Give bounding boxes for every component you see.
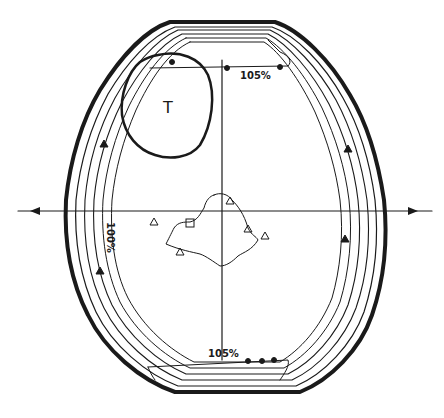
diamond-marker-icon [225, 66, 230, 71]
left-beam-arrow-icon [30, 207, 40, 215]
triangle-marker-icon [150, 218, 158, 225]
isodose-contour-5 [112, 42, 342, 362]
right-beam-arrow-icon [408, 207, 418, 215]
triangle-marker-icon [341, 235, 349, 242]
triangle-marker-icon [100, 140, 108, 147]
isodose-contour-1 [76, 27, 377, 386]
square-marker-icon [186, 219, 194, 227]
diamond-marker-icon [246, 359, 251, 364]
diamond-marker-icon [170, 60, 175, 65]
triangle-marker-icon [96, 267, 104, 274]
diamond-marker-icon [272, 358, 277, 363]
outer-contour [66, 22, 386, 392]
diamond-marker-icon [278, 65, 283, 70]
diamond-marker-icon [260, 359, 265, 364]
isodose-105-bottom-label: 105% [208, 349, 239, 359]
triangle-marker-icon [261, 232, 269, 239]
isodose-105-bottom [148, 360, 288, 380]
tumor-label: T [163, 100, 173, 116]
isodose-100-left-label: 100% [105, 222, 115, 253]
isodose-105-top-label: 105% [240, 71, 271, 81]
triangle-marker-icon [344, 145, 352, 152]
